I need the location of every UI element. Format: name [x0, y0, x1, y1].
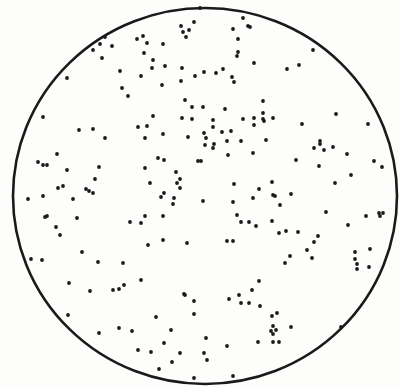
colony-dot [179, 79, 183, 83]
colony-dot [251, 196, 255, 200]
colony-dot [236, 50, 240, 54]
colony-dot [87, 189, 91, 193]
colony-dot [199, 159, 203, 163]
colony-dot [214, 71, 218, 75]
colony-dot [171, 202, 175, 206]
colony-dot [45, 163, 49, 167]
colony-dot [161, 238, 165, 242]
colony-dot [151, 114, 155, 118]
colony-dot [91, 48, 95, 52]
colony-dot [294, 158, 298, 162]
colony-dot [139, 74, 143, 78]
colony-dot [251, 151, 255, 155]
colony-dot [202, 70, 206, 74]
colony-dot [93, 177, 97, 181]
colony-dot [192, 312, 196, 316]
colony-dot [367, 265, 371, 269]
colony-dot [65, 168, 69, 172]
colony-dot [258, 304, 262, 308]
colony-dot [178, 186, 182, 190]
colony-dot [366, 122, 370, 126]
colony-dot [312, 240, 316, 244]
colony-dot [66, 313, 70, 317]
colony-dot [193, 74, 197, 78]
colony-dot [162, 158, 166, 162]
colony-dot [271, 116, 275, 120]
colony-dot [202, 351, 206, 355]
colony-dot [178, 351, 182, 355]
colony-dot [274, 328, 278, 332]
colony-dot [91, 191, 95, 195]
colony-dot [97, 165, 101, 169]
colony-dot [235, 213, 239, 217]
colony-dot [198, 6, 202, 10]
colony-dot [201, 199, 205, 203]
colony-dot [146, 243, 150, 247]
colony-dot [247, 301, 251, 305]
colony-dot [156, 156, 160, 160]
colony-dot [159, 195, 163, 199]
colony-dot [203, 143, 207, 147]
colony-dot [212, 142, 216, 146]
colony-dot [174, 170, 178, 174]
colony-dot [142, 51, 146, 55]
colony-dot [136, 348, 140, 352]
colony-dot [103, 35, 107, 39]
colony-dot [98, 42, 102, 46]
colony-dot [136, 125, 140, 129]
colony-dot [139, 278, 143, 282]
colony-dot [241, 117, 245, 121]
colony-dot [221, 67, 225, 71]
colony-dot [227, 297, 231, 301]
colony-dot [252, 61, 256, 65]
colony-dot [285, 67, 289, 71]
colony-dot [223, 107, 227, 111]
colony-dot [126, 94, 130, 98]
colony-dot [211, 146, 215, 150]
colony-dot [204, 336, 208, 340]
colony-dot [54, 225, 58, 229]
colony-dot [139, 221, 143, 225]
colony-dot [339, 325, 343, 329]
colony-dots [26, 6, 385, 380]
colony-dot [380, 165, 384, 169]
colony-dot [80, 250, 84, 254]
colony-dot [161, 42, 165, 46]
colony-dot [225, 239, 229, 243]
colony-dot [143, 214, 147, 218]
colony-dot [239, 301, 243, 305]
colony-dot [161, 132, 165, 136]
colony-dot [145, 124, 149, 128]
colony-dot [252, 116, 256, 120]
colony-dot [141, 34, 145, 38]
colony-dot [100, 56, 104, 60]
colony-dot [41, 115, 45, 119]
colony-dot [190, 117, 194, 121]
colony-dot [117, 326, 121, 330]
colony-dot [67, 281, 71, 285]
colony-dot [248, 25, 252, 29]
colony-dot [154, 315, 158, 319]
colony-dot [143, 136, 147, 140]
colony-dot [148, 181, 152, 185]
colony-dot [289, 192, 293, 196]
colony-dot [58, 233, 62, 237]
colony-dot [289, 325, 293, 329]
colony-dot [237, 293, 241, 297]
colony-dot [185, 241, 189, 245]
colony-dot [271, 340, 275, 344]
colony-dot [231, 200, 235, 204]
colony-dot [378, 214, 382, 218]
colony-dot [305, 248, 309, 252]
colony-dot [161, 214, 165, 218]
colony-dot [353, 257, 357, 261]
colony-dot [262, 119, 266, 123]
colony-dot [277, 231, 281, 235]
colony-dot [270, 314, 274, 318]
colony-dot [111, 288, 115, 292]
colony-dot [201, 105, 205, 109]
colony-dot [211, 125, 215, 129]
colony-dot [231, 239, 235, 243]
colony-dot [232, 182, 236, 186]
colony-dot [220, 130, 224, 134]
